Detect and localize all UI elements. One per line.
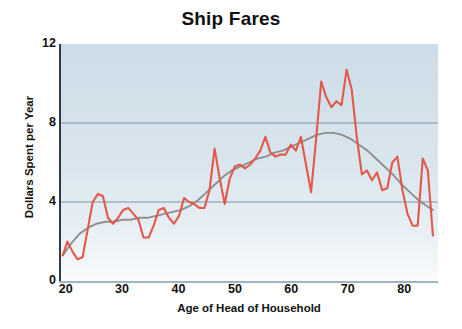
x-tick-label-20: 20	[46, 282, 86, 296]
y-axis-ticks: 12840	[22, 0, 56, 329]
y-axis-line	[59, 44, 61, 282]
x-axis-label: Age of Head of Household	[60, 302, 438, 314]
series-line-trend	[63, 133, 433, 255]
x-tick-label-70: 70	[328, 282, 368, 296]
y-tick-label-4: 4	[28, 194, 56, 208]
x-tick-label-60: 60	[271, 282, 311, 296]
plot-canvas	[60, 44, 438, 281]
x-axis-ticks: 20304050607080	[0, 282, 462, 304]
y-tick-label-8: 8	[28, 115, 56, 129]
x-tick-label-40: 40	[158, 282, 198, 296]
plot-area	[60, 44, 438, 281]
x-tick-label-30: 30	[102, 282, 142, 296]
x-tick-label-50: 50	[215, 282, 255, 296]
chart-figure: Ship Fares Dollars Spent per Year 12840 …	[0, 0, 462, 329]
data-series-layer	[63, 70, 433, 260]
y-tick-label-12: 12	[28, 36, 56, 50]
chart-title: Ship Fares	[0, 8, 462, 30]
series-line-data	[63, 70, 433, 260]
x-tick-label-80: 80	[384, 282, 424, 296]
